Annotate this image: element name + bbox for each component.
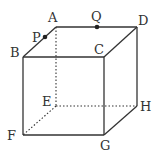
edge-cd [104,27,137,57]
cube-diagram: A Q D P B C E H F G [0,0,159,152]
point-q-dot [95,25,100,30]
edge-ef-hidden [23,106,56,135]
label-g: G [100,138,110,152]
label-q: Q [91,9,102,24]
label-a: A [47,10,58,25]
point-p-dot [43,35,48,40]
label-c: C [94,42,104,57]
label-f: F [7,128,16,143]
edge-gh [104,106,137,135]
label-h: H [140,99,151,114]
label-d: D [138,13,148,28]
label-b: B [10,45,20,60]
label-e: E [42,94,52,109]
label-p: P [32,30,41,45]
